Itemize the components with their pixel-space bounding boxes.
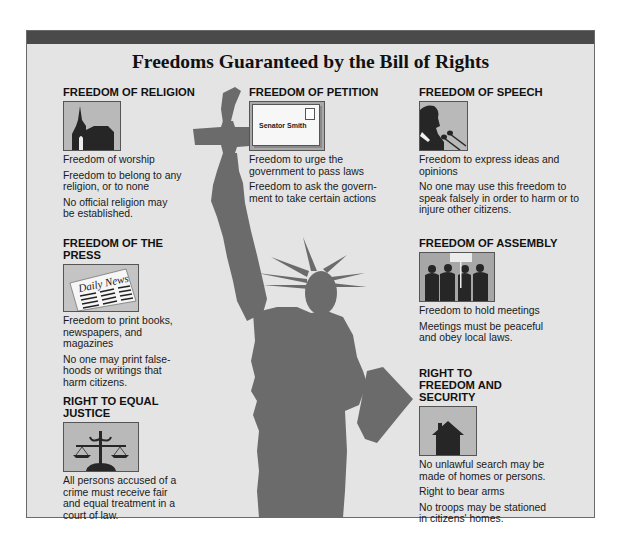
section-speech: FREEDOM OF SPEECH Freedom to express ide… — [419, 86, 579, 220]
section-text: No one may print false-hoods or writings… — [63, 354, 183, 389]
section-text: No troops may be stationed in citizens' … — [419, 502, 549, 525]
bill-of-rights-panel: Freedoms Guaranteed by the Bill of Right… — [26, 30, 595, 518]
section-justice: RIGHT TO EQUAL JUSTICE All persons accus… — [63, 395, 203, 525]
section-text: Right to bear arms — [419, 486, 569, 498]
church-icon — [63, 101, 121, 151]
section-press: FREEDOM OF THE PRESS Daily News Freedom … — [63, 237, 203, 392]
section-text: All persons accused of a crime must rece… — [63, 475, 183, 521]
section-assembly: FREEDOM OF ASSEMBLY Freedom to hold meet… — [419, 237, 569, 348]
section-heading: FREEDOM OF PETITION — [249, 86, 379, 98]
section-heading: FREEDOM OF SPEECH — [419, 86, 579, 98]
crowd-icon — [419, 252, 495, 302]
house-icon — [419, 406, 477, 456]
section-heading: RIGHT TO FREEDOM AND SECURITY — [419, 367, 529, 403]
envelope-address: Senator Smith — [259, 122, 306, 129]
section-security: RIGHT TO FREEDOM AND SECURITY No unlawfu… — [419, 367, 569, 529]
section-text: Freedom to print books, newspapers, and … — [63, 315, 173, 350]
section-text: Freedom to express ideas and opinions — [419, 154, 579, 177]
envelope-icon: Senator Smith — [249, 101, 325, 151]
section-heading: RIGHT TO EQUAL JUSTICE — [63, 395, 203, 419]
section-petition: FREEDOM OF PETITION Senator Smith Freedo… — [249, 86, 379, 208]
section-text: Meetings must be peaceful and obey local… — [419, 321, 549, 344]
page-title: Freedoms Guaranteed by the Bill of Right… — [27, 51, 594, 73]
section-text: Freedom to belong to any religion, or to… — [63, 170, 189, 193]
section-heading: FREEDOM OF RELIGION — [63, 86, 213, 98]
section-heading: FREEDOM OF THE PRESS — [63, 237, 203, 261]
header-bar — [27, 31, 594, 44]
section-heading: FREEDOM OF ASSEMBLY — [419, 237, 569, 249]
newspaper-icon: Daily News — [63, 264, 139, 312]
section-text: No one may use this freedom to speak fal… — [419, 181, 579, 216]
section-text: Freedom to urge the government to pass l… — [249, 154, 379, 177]
scales-icon — [63, 422, 139, 472]
section-text: Freedom of worship — [63, 154, 213, 166]
section-text: No unlawful search may be made of homes … — [419, 459, 559, 482]
section-text: Freedom to ask the govern-ment to take c… — [249, 181, 379, 204]
section-text: Freedom to hold meetings — [419, 305, 569, 317]
section-religion: FREEDOM OF RELIGION Freedom of worship F… — [63, 86, 213, 224]
section-text: No official religion may be established. — [63, 197, 173, 220]
speaker-microphone-icon — [419, 101, 468, 151]
